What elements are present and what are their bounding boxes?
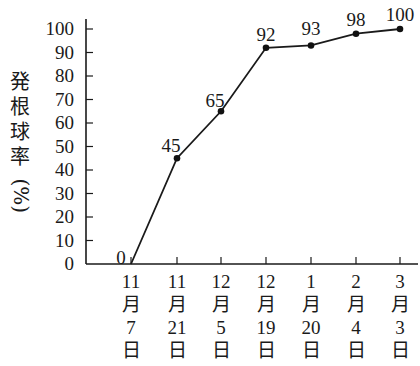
data-value-label: 45 [151, 136, 191, 155]
y-tick-label: 20 [36, 207, 74, 226]
y-tick-label: 80 [36, 66, 74, 85]
y-axis-label-char: 根 [8, 95, 32, 120]
y-tick-label: 30 [36, 184, 74, 203]
y-tick-label: 40 [36, 160, 74, 179]
x-category-label: 1月20日 [291, 270, 331, 362]
y-axis-label-char: 球 [8, 120, 32, 145]
data-point-marker [353, 30, 360, 37]
y-tick-label: 90 [36, 43, 74, 62]
data-point-marker [263, 45, 270, 52]
x-category-label: 12月19日 [246, 270, 286, 362]
y-tick-label: 100 [36, 19, 74, 38]
data-value-label: 65 [195, 91, 235, 110]
data-value-label: 93 [291, 19, 331, 38]
x-category-label: 11月21日 [157, 270, 197, 362]
data-value-label: 92 [246, 25, 286, 44]
y-axis-label: 発 根 球 率 (%) [8, 70, 32, 203]
y-tick-label: 60 [36, 113, 74, 132]
y-tick-label: 10 [36, 231, 74, 250]
data-point-marker [397, 26, 404, 33]
data-value-label: 100 [380, 5, 420, 24]
x-category-label: 12月5日 [201, 270, 241, 362]
x-category-label: 2月4日 [336, 270, 376, 362]
y-tick-label: 70 [36, 90, 74, 109]
data-point-marker [308, 42, 315, 49]
y-tick-label: 0 [36, 254, 74, 273]
axes [86, 19, 418, 264]
data-value-label: 0 [101, 248, 141, 267]
y-axis-label-char: 発 [8, 70, 32, 95]
y-axis-label-char: 率 [8, 145, 32, 170]
y-axis-unit: (%) [8, 179, 33, 203]
x-category-label: 11月7日 [111, 270, 151, 362]
data-value-label: 98 [336, 10, 376, 29]
y-tick-label: 50 [36, 137, 74, 156]
x-category-label: 3月3日 [380, 270, 420, 362]
